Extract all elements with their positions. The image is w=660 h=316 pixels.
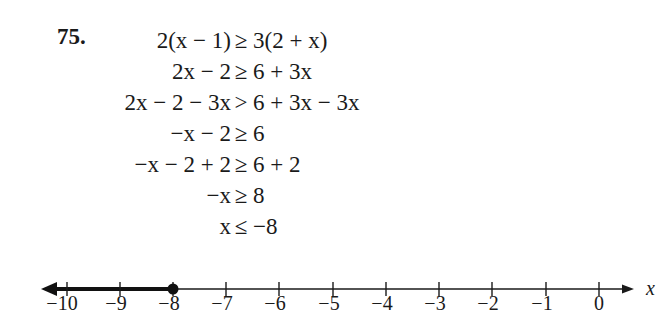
step-1-relation: ≥	[233, 26, 249, 56]
tick-label: −7	[211, 292, 232, 315]
solution-steps: 2(x − 1) ≥ 3(2 + x) 2x − 2 ≥ 6 + 3x 2x −…	[0, 0, 660, 250]
tick-label: −8	[158, 292, 179, 315]
step-6-lhs: −x	[207, 181, 231, 211]
step-7-relation: ≤	[233, 212, 249, 242]
tick-label: −10	[46, 292, 77, 315]
step-1-lhs: 2(x − 1)	[157, 26, 231, 56]
tick-label: −2	[477, 292, 498, 315]
step-3: 2x − 2 − 3x > 6 + 3x − 3x	[0, 88, 660, 118]
step-4: −x − 2 ≥ 6	[0, 119, 660, 149]
step-3-lhs: 2x − 2 − 3x	[125, 88, 231, 118]
tick-label: −6	[264, 292, 285, 315]
step-2: 2x − 2 ≥ 6 + 3x	[0, 57, 660, 87]
step-4-relation: ≥	[233, 119, 249, 149]
tick-label: 0	[594, 292, 604, 315]
step-1: 2(x − 1) ≥ 3(2 + x)	[0, 26, 660, 56]
tick-label: −9	[105, 292, 126, 315]
step-6: −x ≥ 8	[0, 181, 660, 211]
step-2-rhs: 6 + 3x	[253, 57, 312, 87]
right-arrow-icon	[622, 285, 634, 294]
step-6-rhs: 8	[253, 181, 265, 211]
step-4-lhs: −x − 2	[171, 119, 231, 149]
tick-label: −3	[424, 292, 445, 315]
step-7-lhs: x	[220, 212, 232, 242]
tick-label: −5	[318, 292, 339, 315]
step-5-relation: ≥	[233, 150, 249, 180]
step-7-rhs: −8	[253, 212, 277, 242]
step-5: −x − 2 + 2 ≥ 6 + 2	[0, 150, 660, 180]
number-line: −10 −9 −8 −7 −6 −5 −4 −3 −2 −1 0 x	[0, 262, 660, 316]
axis-variable-label: x	[646, 277, 655, 300]
step-2-relation: ≥	[233, 57, 249, 87]
tick-label: −1	[531, 292, 552, 315]
step-7: x ≤ −8	[0, 212, 660, 242]
step-5-rhs: 6 + 2	[253, 150, 300, 180]
step-3-relation: >	[233, 88, 249, 118]
tick-label: −4	[371, 292, 392, 315]
step-6-relation: ≥	[233, 181, 249, 211]
step-5-lhs: −x − 2 + 2	[135, 150, 231, 180]
step-4-rhs: 6	[253, 119, 265, 149]
step-3-rhs: 6 + 3x − 3x	[253, 88, 359, 118]
step-1-rhs: 3(2 + x)	[253, 26, 327, 56]
step-2-lhs: 2x − 2	[172, 57, 231, 87]
